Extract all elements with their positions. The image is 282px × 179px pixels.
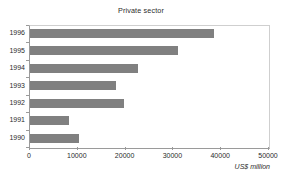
bar-1995	[30, 46, 178, 55]
bar-row	[30, 60, 269, 77]
x-axis-tick-labels: 01000020000300004000050000	[0, 152, 282, 163]
x-axis-ticks	[29, 147, 269, 151]
y-axis-tick	[26, 130, 29, 131]
x-axis-label-40000: 40000	[210, 152, 229, 159]
y-axis-label-1994: 1994	[0, 64, 25, 71]
x-axis-tick	[172, 147, 173, 150]
bar-row	[30, 130, 269, 147]
x-axis-label-20000: 20000	[115, 152, 134, 159]
bar-1992	[30, 99, 124, 108]
bar-1993	[30, 81, 116, 90]
x-axis-label-0: 0	[27, 152, 31, 159]
x-axis-label-10000: 10000	[67, 152, 86, 159]
y-axis-label-1990: 1990	[0, 134, 25, 141]
y-axis-tick	[26, 60, 29, 61]
bar-series	[30, 25, 269, 147]
y-axis-label-1991: 1991	[0, 116, 25, 123]
bar-1996	[30, 29, 214, 38]
y-axis-label-1993: 1993	[0, 82, 25, 89]
bar-chart-figure: Private sector 1996199519941993199219911…	[0, 0, 282, 179]
bar-row	[30, 25, 269, 42]
bar-1994	[30, 64, 138, 73]
x-axis-unit-caption: US$ million	[235, 163, 270, 170]
x-axis-tick	[220, 147, 221, 150]
x-axis-label-30000: 30000	[163, 152, 182, 159]
x-axis-tick	[268, 147, 269, 150]
y-axis-tick	[26, 95, 29, 96]
y-axis-label-1995: 1995	[0, 47, 25, 54]
x-axis-tick	[125, 147, 126, 150]
x-axis-label-50000: 50000	[258, 152, 277, 159]
x-axis-tick	[77, 147, 78, 150]
bar-row	[30, 42, 269, 59]
bar-row	[30, 112, 269, 129]
bar-row	[30, 95, 269, 112]
y-axis-tick	[26, 42, 29, 43]
bar-1991	[30, 116, 69, 125]
y-axis-tick	[26, 25, 29, 26]
bar-row	[30, 77, 269, 94]
chart-title: Private sector	[0, 6, 282, 15]
y-axis-tick	[26, 77, 29, 78]
y-axis-category-labels: 1996199519941993199219911990	[0, 25, 29, 147]
y-axis-label-1996: 1996	[0, 29, 25, 36]
bar-1990	[30, 134, 79, 143]
y-axis-tick	[26, 112, 29, 113]
x-axis-tick	[29, 147, 30, 150]
y-axis-label-1992: 1992	[0, 99, 25, 106]
